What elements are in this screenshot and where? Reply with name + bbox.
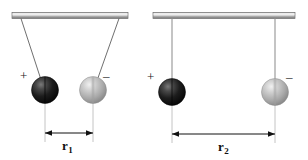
dimension-label-r1-base: r [62, 138, 68, 153]
ceiling-support-bar-left [12, 13, 128, 19]
positive-charged-sphere-left [32, 77, 59, 104]
right-panel [153, 13, 295, 144]
minus-sign-right-panel: – [286, 70, 293, 83]
pendulum-separation-figure: + – + – r1 r2 [0, 0, 308, 160]
left-panel [12, 13, 128, 143]
dimension-label-r2: r2 [218, 140, 228, 153]
separation-dimension-r2 [172, 131, 275, 136]
ceiling-support-bar-right [153, 13, 295, 19]
negative-charged-sphere-right [262, 79, 289, 106]
dimension-label-r1-subscript: 1 [68, 145, 73, 155]
dimension-label-r2-subscript: 2 [224, 146, 229, 156]
dimension-label-r2-base: r [218, 139, 224, 154]
dimension-label-r1: r1 [62, 139, 72, 152]
minus-sign-left-panel: – [103, 69, 110, 82]
positive-charged-sphere-right [159, 79, 186, 106]
separation-dimension-r1 [45, 130, 93, 135]
plus-sign-left-panel: + [20, 69, 27, 82]
plus-sign-right-panel: + [147, 70, 154, 83]
